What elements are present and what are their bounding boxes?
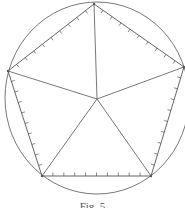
tick-mark — [137, 36, 139, 39]
pentagon-outline — [8, 4, 184, 176]
vertex-point-0 — [93, 3, 95, 5]
tick-mark — [101, 10, 103, 13]
tick-mark — [174, 88, 177, 89]
tick-mark — [119, 23, 121, 26]
tick-mark — [17, 64, 19, 67]
tick-mark — [177, 77, 180, 78]
tick-mark — [155, 48, 157, 51]
tick-mark — [110, 17, 112, 20]
tick-mark — [35, 154, 38, 155]
tick-mark — [25, 58, 27, 61]
radius-line-1 — [97, 67, 184, 99]
tick-mark — [151, 164, 154, 165]
tick-mark — [51, 38, 53, 41]
radius-line-4 — [8, 71, 97, 99]
tick-mark — [22, 112, 25, 113]
tick-mark — [32, 143, 35, 144]
pentagon-in-circle-diagram — [0, 0, 185, 208]
tick-mark — [85, 11, 87, 14]
tick-mark — [39, 164, 42, 165]
radius-line-0 — [94, 4, 97, 99]
tick-mark — [146, 42, 148, 45]
tick-mark — [154, 153, 157, 154]
tick-mark — [68, 24, 70, 27]
tick-mark — [164, 120, 167, 121]
tick-mark — [171, 99, 174, 100]
vertex-point-2 — [150, 175, 152, 177]
radius-line-2 — [97, 99, 151, 176]
tick-mark — [25, 122, 28, 123]
figure-caption: Fig. 5 — [0, 200, 185, 208]
tick-mark — [28, 133, 31, 134]
vertex-point-3 — [41, 175, 43, 177]
vertex-point-4 — [7, 70, 9, 72]
tick-mark — [158, 142, 161, 143]
radius-line-3 — [42, 99, 97, 176]
tick-mark — [11, 80, 14, 81]
tick-mark — [164, 54, 166, 57]
tick-mark — [128, 29, 130, 32]
tick-mark — [18, 101, 21, 102]
tick-mark — [34, 51, 36, 54]
tick-mark — [15, 91, 18, 92]
tick-mark — [42, 44, 44, 47]
tick-mark — [60, 31, 62, 34]
tick-mark — [167, 110, 170, 111]
tick-mark — [161, 131, 164, 132]
tick-mark — [173, 61, 175, 64]
tick-mark — [77, 17, 79, 20]
